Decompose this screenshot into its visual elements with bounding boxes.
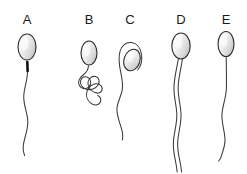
panel-b-coiled-tail (79, 66, 103, 105)
panel-b: B (79, 12, 103, 105)
panel-b-head-highlight (83, 43, 90, 56)
panel-a-tail (23, 70, 28, 156)
panel-e-head-highlight (220, 34, 227, 47)
panel-c: C (117, 12, 143, 140)
panel-e-tail (219, 57, 227, 161)
panel-b-label: B (85, 12, 94, 27)
panel-d-tail-1 (173, 58, 178, 172)
panel-d-head-highlight (174, 35, 182, 49)
figure-canvas: A B C D (0, 0, 247, 174)
panel-d-label: D (176, 12, 185, 27)
panel-a-head-highlight (21, 36, 29, 50)
panel-e-label: E (222, 12, 231, 27)
panel-e: E (218, 12, 234, 161)
panel-c-label: C (125, 12, 134, 27)
panel-d-tail-2 (178, 58, 183, 172)
panel-d: D (172, 12, 190, 172)
panel-a-label: A (23, 12, 32, 27)
panel-a: A (18, 12, 36, 156)
sperm-morphology-figure: A B C D (0, 0, 247, 174)
